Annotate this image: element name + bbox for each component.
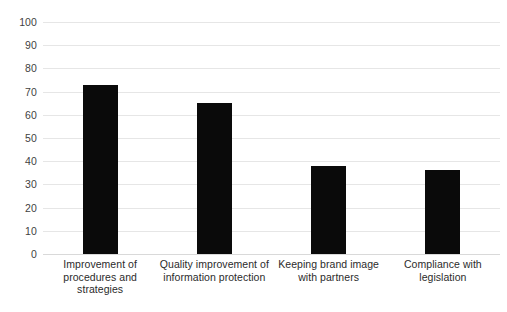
gridline bbox=[43, 45, 500, 46]
gridline bbox=[43, 22, 500, 23]
x-axis-label-line: information protection bbox=[157, 271, 271, 284]
y-axis-tick-label: 90 bbox=[3, 40, 37, 50]
y-axis-tick-label: 60 bbox=[3, 110, 37, 120]
y-axis-tick-label: 70 bbox=[3, 87, 37, 97]
y-axis-tick-label: 50 bbox=[3, 133, 37, 143]
plot-area bbox=[43, 22, 500, 254]
bar-chart: 1009080706050403020100 Improvement ofpro… bbox=[0, 0, 507, 312]
gridline bbox=[43, 68, 500, 69]
axis-baseline bbox=[43, 254, 500, 255]
x-axis-category-labels: Improvement ofprocedures andstrategiesQu… bbox=[43, 258, 500, 312]
y-axis-tick-label: 30 bbox=[3, 179, 37, 189]
x-axis-label-line: Improvement of bbox=[43, 258, 157, 271]
y-axis-tick-label: 20 bbox=[3, 203, 37, 213]
bar bbox=[311, 166, 346, 254]
x-axis-category-label: Compliance withlegislation bbox=[386, 258, 500, 283]
x-axis-label-line: Compliance with bbox=[386, 258, 500, 271]
y-axis-tick-label: 100 bbox=[3, 17, 37, 27]
x-axis-label-line: legislation bbox=[386, 271, 500, 284]
y-axis-tick-label: 10 bbox=[3, 226, 37, 236]
x-axis-category-label: Quality improvement ofinformation protec… bbox=[157, 258, 271, 283]
bar bbox=[83, 85, 118, 254]
x-axis-label-line: strategies bbox=[43, 283, 157, 296]
x-axis-label-line: Keeping brand image bbox=[272, 258, 386, 271]
x-axis-label-line: Quality improvement of bbox=[157, 258, 271, 271]
bar bbox=[197, 103, 232, 254]
y-axis-tick-labels: 1009080706050403020100 bbox=[0, 22, 37, 254]
y-axis-tick-label: 80 bbox=[3, 63, 37, 73]
x-axis-category-label: Keeping brand imagewith partners bbox=[272, 258, 386, 283]
x-axis-category-label: Improvement ofprocedures andstrategies bbox=[43, 258, 157, 296]
x-axis-label-line: with partners bbox=[272, 271, 386, 284]
y-axis-tick-label: 0 bbox=[3, 249, 37, 259]
bar bbox=[425, 170, 460, 254]
x-axis-label-line: procedures and bbox=[43, 271, 157, 284]
y-axis-tick-label: 40 bbox=[3, 156, 37, 166]
